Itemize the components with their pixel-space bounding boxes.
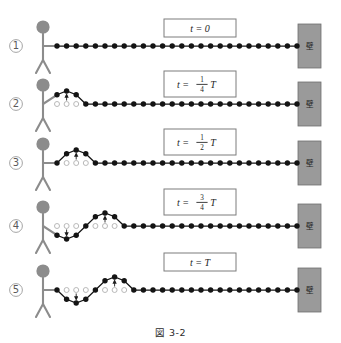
rest-position-marker	[74, 224, 79, 229]
rope-particle	[218, 223, 223, 228]
rope-particle	[112, 160, 117, 165]
wall: 壁	[298, 24, 321, 68]
wall: 壁	[298, 82, 321, 126]
rope-particle	[237, 43, 242, 48]
rope-particle	[150, 160, 155, 165]
row-number-label: 4	[13, 220, 19, 231]
rope-particle	[74, 300, 79, 305]
rope-particle	[64, 43, 69, 48]
rope-particle	[170, 160, 175, 165]
rope-particle	[275, 223, 280, 228]
rope-particle	[150, 101, 155, 106]
person-head-icon	[36, 78, 49, 91]
rope-particle	[208, 287, 213, 292]
rope-particle	[131, 43, 136, 48]
rope-particle	[179, 160, 184, 165]
rope-particle	[141, 287, 146, 292]
rope-particle	[160, 43, 165, 48]
rope-particle	[198, 43, 203, 48]
time-label-numerator: 1	[200, 76, 204, 84]
rope-particle	[285, 223, 290, 228]
rope-particle	[102, 210, 107, 215]
rope-particle	[83, 43, 88, 48]
wall-label: 壁	[306, 158, 314, 168]
rope-particle	[189, 101, 194, 106]
rope-particle	[218, 287, 223, 292]
rope-particle	[227, 43, 232, 48]
time-label-lhs: t =	[177, 197, 189, 208]
rope-particle	[64, 88, 69, 93]
rope-particle	[170, 287, 175, 292]
rest-position-marker	[74, 288, 79, 293]
person-head-icon	[36, 264, 49, 277]
rope-particle	[83, 223, 88, 228]
person-head-icon	[36, 20, 49, 33]
row-number-label: 1	[13, 40, 19, 51]
rope-particle	[275, 101, 280, 106]
rest-position-marker	[93, 224, 98, 229]
rope-particle	[83, 101, 88, 106]
time-label-text: t = T	[190, 257, 212, 268]
time-label-text: t = 0	[190, 23, 210, 34]
rope-particle	[141, 101, 146, 106]
rope-particle	[285, 43, 290, 48]
rope-particle	[256, 101, 261, 106]
rope-particle	[141, 43, 146, 48]
rope-particle	[189, 223, 194, 228]
rope-particle	[141, 160, 146, 165]
rope-particle	[160, 101, 165, 106]
row-number-label: 5	[13, 284, 19, 295]
time-label-denominator: 2	[200, 144, 204, 152]
rope-particle	[122, 223, 127, 228]
rope-particle	[179, 43, 184, 48]
rope-particle	[294, 43, 299, 48]
rope-particle	[74, 147, 79, 152]
person-head-icon	[36, 200, 49, 213]
rope-particle	[275, 287, 280, 292]
rope-particle	[266, 101, 271, 106]
rope-particle	[131, 287, 136, 292]
rest-position-marker	[74, 161, 79, 166]
rope-particle	[64, 297, 69, 302]
rope-particle	[285, 287, 290, 292]
row-number-label: 3	[13, 157, 19, 168]
rope-particle	[74, 92, 79, 97]
rope-particle	[54, 92, 59, 97]
rope-particle	[112, 214, 117, 219]
rest-position-marker	[64, 102, 69, 107]
rope-particle	[83, 297, 88, 302]
rope-particle	[131, 160, 136, 165]
rope-particle	[227, 160, 232, 165]
rope-particle	[256, 223, 261, 228]
rest-position-marker	[83, 288, 88, 293]
rope-particle	[218, 43, 223, 48]
rope-particle	[170, 43, 175, 48]
rope-particle	[256, 160, 261, 165]
rope-particle	[93, 214, 98, 219]
rope-particle	[54, 233, 59, 238]
rest-position-marker	[122, 288, 127, 293]
rope-particle	[150, 287, 155, 292]
rope-particle	[54, 160, 59, 165]
rope-particle	[150, 223, 155, 228]
rope-particle	[208, 160, 213, 165]
rope-particle	[170, 223, 175, 228]
rope-particle	[74, 43, 79, 48]
rope-particle	[237, 101, 242, 106]
rope-particle	[160, 160, 165, 165]
rope-particle	[93, 160, 98, 165]
rope-particle	[93, 43, 98, 48]
rope-particle	[122, 101, 127, 106]
rope-particle	[237, 287, 242, 292]
time-label-denominator: 4	[200, 204, 204, 212]
rope-particle	[246, 43, 251, 48]
rope-particle	[150, 43, 155, 48]
rope-particle	[74, 233, 79, 238]
wall-label: 壁	[306, 99, 314, 109]
rope-particle	[141, 223, 146, 228]
wall: 壁	[298, 268, 321, 312]
rope-particle	[208, 223, 213, 228]
rope-particle	[122, 278, 127, 283]
rope-particle	[246, 160, 251, 165]
rope-particle	[266, 43, 271, 48]
